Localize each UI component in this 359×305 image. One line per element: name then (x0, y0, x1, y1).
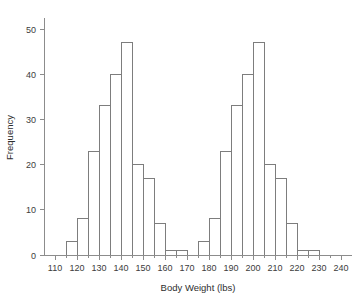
histogram-bar (220, 151, 231, 255)
y-axis-ticks (40, 29, 44, 255)
y-tick-label: 0 (31, 251, 36, 261)
histogram-bar (253, 43, 264, 255)
y-tick-label: 50 (26, 25, 36, 35)
y-tick-label: 10 (26, 205, 36, 215)
histogram-bar (121, 43, 132, 255)
histogram-bar (88, 151, 99, 255)
histogram-bar (308, 250, 319, 255)
histogram-bar (66, 241, 77, 255)
plot-canvas: 1101201301401501601701801902002102202302… (0, 0, 359, 305)
x-tick-label: 170 (179, 263, 194, 273)
y-tick-label: 40 (26, 70, 36, 80)
histogram-bar (132, 165, 143, 255)
x-axis-ticks (55, 255, 341, 260)
histogram-bar (154, 223, 165, 255)
bars-group (66, 43, 319, 255)
x-axis-tick-labels: 1101201301401501601701801902002102202302… (48, 263, 349, 273)
y-tick-label: 30 (26, 115, 36, 125)
histogram-bar (110, 74, 121, 255)
histogram-bar (143, 178, 154, 255)
y-axis-title: Frequency (4, 115, 15, 160)
x-tick-label: 240 (333, 263, 348, 273)
histogram-bar (77, 219, 88, 255)
histogram-bar (231, 106, 242, 255)
x-tick-label: 230 (311, 263, 326, 273)
y-tick-label: 20 (26, 160, 36, 170)
x-tick-label: 160 (157, 263, 172, 273)
x-tick-label: 140 (113, 263, 128, 273)
histogram-bar (275, 178, 286, 255)
x-tick-label: 200 (245, 263, 260, 273)
histogram-bar (209, 219, 220, 255)
x-tick-label: 190 (223, 263, 238, 273)
y-axis-tick-labels: 01020304050 (26, 25, 36, 261)
x-tick-label: 180 (201, 263, 216, 273)
x-tick-label: 120 (69, 263, 84, 273)
histogram-chart: 1101201301401501601701801902002102202302… (0, 0, 359, 305)
x-tick-label: 210 (267, 263, 282, 273)
x-axis-title: Body Weight (lbs) (161, 282, 236, 293)
histogram-bar (297, 250, 308, 255)
x-tick-label: 220 (289, 263, 304, 273)
histogram-bar (242, 74, 253, 255)
histogram-bar (286, 223, 297, 255)
histogram-bar (264, 165, 275, 255)
histogram-bar (176, 250, 187, 255)
x-tick-label: 110 (48, 263, 62, 273)
x-tick-label: 130 (91, 263, 106, 273)
x-tick-label: 150 (135, 263, 150, 273)
histogram-bar (165, 250, 176, 255)
histogram-bar (99, 106, 110, 255)
histogram-bar (198, 241, 209, 255)
